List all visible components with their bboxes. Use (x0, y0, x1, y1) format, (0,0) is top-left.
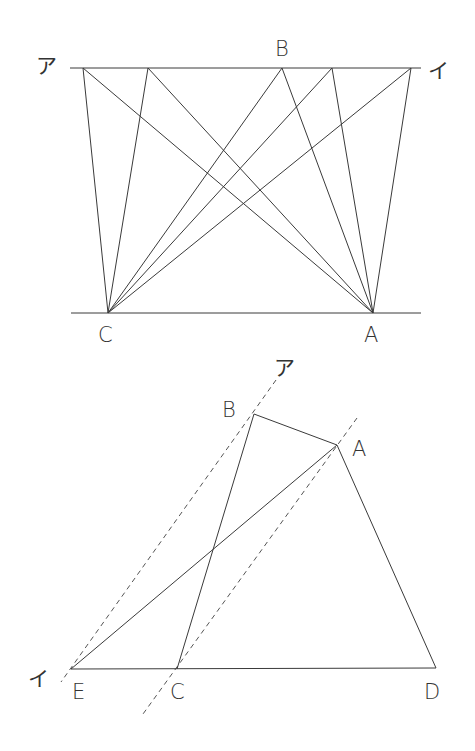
segment-a-p1 (83, 68, 373, 313)
segment-c-b (108, 68, 282, 313)
segment-e-d (71, 668, 436, 669)
figure-2-quadrilateral: ア イ B A E C D (28, 356, 440, 714)
label-point-e: E (72, 680, 85, 704)
label-point-b: B (275, 37, 289, 61)
label-point-c: C (98, 323, 113, 347)
geometry-figures: ア イ B C A ア イ B A E C D (0, 0, 475, 751)
segment-a-d (337, 445, 436, 668)
label-line-i: イ (28, 667, 49, 691)
dashed-line-a-through-b-e (61, 380, 276, 682)
segment-a-b (282, 68, 373, 313)
label-point-b: B (222, 398, 236, 422)
label-point-a: A (364, 323, 378, 347)
segment-b-c (177, 414, 254, 669)
segment-a-p4 (332, 68, 373, 313)
label-point-c: C (170, 680, 185, 704)
dashed-line-through-a-c (143, 418, 357, 714)
label-point-d: D (424, 680, 440, 704)
label-point-a: A (352, 437, 366, 461)
segment-e-a (71, 445, 337, 669)
label-line-a: ア (36, 54, 57, 78)
segment-c-p5 (108, 68, 411, 313)
segment-c-p1 (83, 68, 108, 313)
segment-a-p5 (373, 68, 411, 313)
segment-b-a (254, 414, 337, 445)
label-line-i: イ (428, 59, 449, 83)
label-line-a: ア (274, 356, 295, 380)
segment-a-p2 (148, 68, 373, 313)
figure-1-parallel-lines: ア イ B C A (36, 37, 449, 347)
